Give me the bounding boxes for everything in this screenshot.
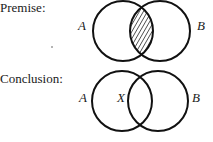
venn-diagrams [0, 0, 213, 142]
conclusion-label-a: A [79, 91, 87, 104]
conclusion-venn [92, 71, 188, 131]
premise-label-b: B [197, 19, 205, 32]
speck-mark [51, 46, 53, 48]
premise-label-a: A [78, 19, 86, 32]
conclusion-label-b: B [192, 91, 200, 104]
premise-venn [93, 1, 190, 61]
conclusion-circle-b [128, 71, 188, 131]
conclusion-marker-x: X [117, 91, 125, 104]
